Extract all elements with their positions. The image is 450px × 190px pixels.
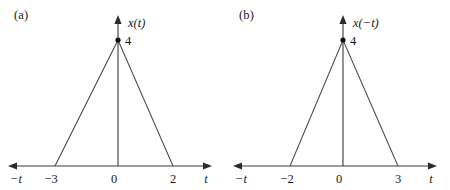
axis-label-t-b: t	[429, 172, 433, 186]
vertical-axis-arrow-icon-a	[114, 15, 121, 24]
peak-marker-b	[340, 37, 345, 42]
axis-label-negative-t-a: −t	[10, 172, 22, 186]
plot-canvas-b: x(−t) 4 0 −2 3 −t t	[225, 0, 450, 190]
vertical-axis-arrow-icon-b	[339, 15, 346, 24]
signal-axis-label-a: x(t)	[127, 16, 145, 30]
plot-canvas-a: x(t) 4 0 −3 2 −t t	[0, 0, 225, 190]
tick-label-origin-a: 0	[111, 172, 117, 186]
peak-value-label-a: 4	[125, 34, 132, 48]
horizontal-axis-right-arrow-icon-b	[428, 162, 437, 169]
horizontal-axis-right-arrow-icon-a	[203, 162, 212, 169]
tick-label-origin-b: 0	[336, 172, 342, 186]
tick-label-left-a: −3	[44, 172, 57, 186]
tick-label-left-b: −2	[280, 172, 293, 186]
signal-axis-label-b: x(−t)	[352, 16, 379, 30]
signal-waveform-b	[290, 40, 398, 166]
peak-value-label-b: 4	[350, 34, 357, 48]
plot-panel-a: (a) x(t) 4 0 −3 2 −t t	[0, 0, 225, 190]
signal-plots-figure: (a) x(t) 4 0 −3 2 −t t (b)	[0, 0, 450, 190]
axis-label-t-a: t	[204, 172, 208, 186]
tick-label-right-a: 2	[170, 172, 176, 186]
tick-label-right-b: 3	[395, 172, 401, 186]
plot-panel-b: (b) x(−t) 4 0 −2 3 −t t	[225, 0, 450, 190]
peak-marker-a	[115, 37, 120, 42]
horizontal-axis-left-arrow-icon-a	[8, 162, 17, 169]
horizontal-axis-left-arrow-icon-b	[233, 162, 242, 169]
signal-waveform-a	[55, 40, 173, 166]
axis-label-negative-t-b: −t	[235, 172, 247, 186]
